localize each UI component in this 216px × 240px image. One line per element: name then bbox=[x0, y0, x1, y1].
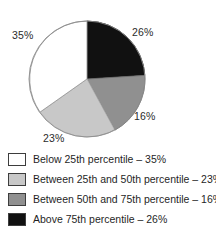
pie-graphic bbox=[0, 0, 216, 150]
pie-label-between-50th-75th: 16% bbox=[134, 111, 155, 122]
pie-label-above-75th: 26% bbox=[132, 27, 153, 38]
legend-swatch-above-75th bbox=[8, 213, 26, 226]
legend-swatch-below-25th bbox=[8, 153, 26, 166]
legend-item-between-50th-75th[interactable]: Between 50th and 75th percentile – 16% bbox=[8, 192, 216, 207]
pie-label-between-25th-50th: 23% bbox=[43, 133, 64, 144]
legend-label-between-25th-50th: Between 25th and 50th percentile – 23% bbox=[33, 174, 216, 185]
legend-item-above-75th[interactable]: Above 75th percentile – 26% bbox=[8, 212, 167, 227]
legend-label-below-25th: Below 25th percentile – 35% bbox=[33, 154, 166, 165]
pie-chart-figure: 26% 16% 23% 35% Below 25th percentile – … bbox=[0, 0, 216, 240]
legend-item-below-25th[interactable]: Below 25th percentile – 35% bbox=[8, 152, 166, 167]
chart-legend: Below 25th percentile – 35% Between 25th… bbox=[0, 150, 216, 240]
legend-item-between-25th-50th[interactable]: Between 25th and 50th percentile – 23% bbox=[8, 172, 216, 187]
legend-label-above-75th: Above 75th percentile – 26% bbox=[33, 214, 167, 225]
pie-label-below-25th: 35% bbox=[12, 30, 33, 41]
pie-plot-area: 26% 16% 23% 35% bbox=[0, 0, 216, 150]
legend-label-between-50th-75th: Between 50th and 75th percentile – 16% bbox=[33, 194, 216, 205]
legend-swatch-between-25th-50th bbox=[8, 173, 26, 186]
legend-swatch-between-50th-75th bbox=[8, 193, 26, 206]
